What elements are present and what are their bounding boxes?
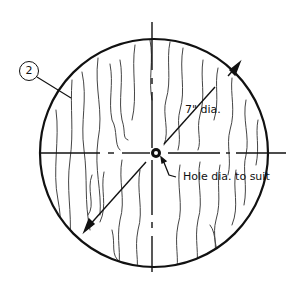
wooden-disc-drawing (0, 0, 307, 285)
centre-hole (151, 148, 161, 158)
centre-lines (40, 22, 286, 272)
dimension-label: 7" dia. (185, 103, 221, 116)
part-number-callout: 2 (19, 61, 39, 81)
hole-label: Hole dia. to suit (183, 170, 270, 183)
part-number: 2 (26, 64, 33, 77)
hole-leader (161, 157, 176, 177)
